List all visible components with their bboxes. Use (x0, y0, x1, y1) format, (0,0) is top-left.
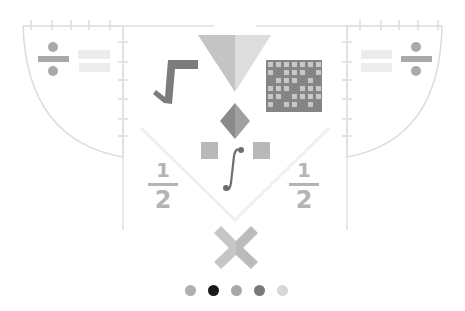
grid-icon (266, 60, 322, 112)
diamond-icon (220, 103, 250, 139)
square-root-icon (153, 60, 198, 104)
page-dot-2-active[interactable] (208, 285, 219, 296)
triangle-icon (198, 35, 271, 92)
right-square-icon (253, 142, 270, 159)
left-fraction-denominator: 2 (148, 188, 178, 212)
right-equals-icon (361, 50, 392, 72)
right-fraction-one-half: 1 2 (289, 160, 319, 212)
math-illustration (0, 0, 465, 311)
right-divide-icon (401, 42, 432, 76)
left-divide-icon (38, 42, 69, 76)
right-ruler-quadrant (342, 20, 442, 157)
page-dot-1[interactable] (185, 285, 196, 296)
integral-bottom-dot (223, 185, 229, 191)
page-dot-5[interactable] (277, 285, 288, 296)
pagination-dots (185, 285, 288, 296)
left-ruler-quadrant (23, 20, 128, 157)
integral-icon (225, 149, 241, 189)
multiply-icon (214, 226, 258, 269)
right-fraction-numerator: 1 (289, 160, 319, 180)
page-dot-3[interactable] (231, 285, 242, 296)
page-dot-4[interactable] (254, 285, 265, 296)
left-square-icon (201, 142, 218, 159)
right-fraction-denominator: 2 (289, 188, 319, 212)
integral-top-dot (238, 147, 244, 153)
left-fraction-one-half: 1 2 (148, 160, 178, 212)
left-equals-icon (78, 50, 110, 72)
left-fraction-numerator: 1 (148, 160, 178, 180)
